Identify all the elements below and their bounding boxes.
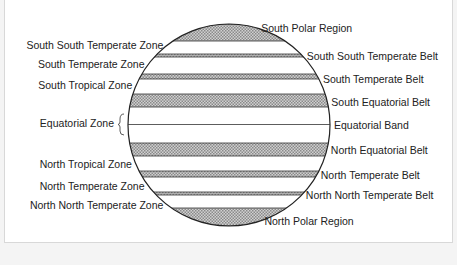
right-belt-label: South Polar Region	[261, 22, 352, 34]
left-zone-label: South Temperate Zone	[38, 58, 145, 70]
shaded-band	[120, 74, 340, 79]
equatorial-zone-brace	[118, 114, 124, 135]
right-belt-label: North Temperate Belt	[321, 169, 420, 181]
left-zone-label: North Tropical Zone	[40, 158, 132, 170]
left-zone-label: Equatorial Zone	[40, 117, 114, 129]
right-belt-label: South Temperate Belt	[323, 73, 424, 85]
right-belt-label: North Equatorial Belt	[331, 144, 428, 156]
right-belt-label: North Polar Region	[264, 215, 353, 227]
right-belt-label: South South Temperate Belt	[307, 50, 438, 62]
left-zone-label: North Temperate Zone	[40, 180, 145, 192]
left-zone-label: South South Temperate Zone	[26, 39, 163, 51]
shaded-band	[120, 143, 340, 156]
right-belt-label: Equatorial Band	[334, 119, 409, 131]
left-zone-label: North North Temperate Zone	[30, 199, 163, 211]
right-belt-label: North North Temperate Belt	[306, 189, 434, 201]
right-belt-label: South Equatorial Belt	[331, 96, 430, 108]
shaded-band	[120, 94, 340, 107]
left-zone-label: South Tropical Zone	[38, 79, 132, 91]
shaded-band	[120, 171, 340, 177]
